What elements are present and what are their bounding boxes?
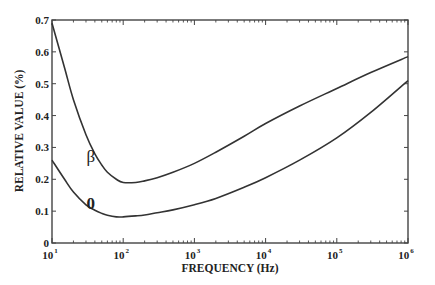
y-tick-label: 0.7	[35, 14, 49, 26]
x-tick-label: 106	[398, 247, 414, 261]
y-tick-label: 0.3	[35, 141, 49, 153]
plot-frame	[52, 20, 408, 243]
x-tick-label: 101	[42, 247, 58, 261]
curve-labels: β0	[86, 147, 95, 213]
relative-value-chart: 00.10.20.30.40.50.60.7 10110210310410510…	[0, 0, 435, 285]
x-tick-label: 102	[113, 247, 129, 261]
y-tick-label: 0.6	[35, 46, 49, 58]
y-tick-label: 0.5	[35, 78, 49, 90]
curve-label-beta: β	[86, 147, 95, 166]
y-tick-label: 0.2	[35, 173, 49, 185]
x-axis: 101102103104105106	[42, 20, 414, 261]
y-axis-title: RELATIVE VALUE (%)	[13, 69, 26, 192]
curves	[52, 23, 408, 217]
y-tick-label: 0.1	[35, 205, 49, 217]
plot-border	[52, 20, 408, 243]
x-tick-label: 105	[327, 247, 343, 261]
y-tick-label: 0.4	[35, 110, 49, 122]
curve-zero	[52, 81, 408, 218]
x-tick-label: 104	[256, 247, 272, 261]
curve-label-zero: 0	[86, 194, 95, 213]
x-tick-label: 103	[185, 247, 201, 261]
y-tick-label: 0	[44, 237, 50, 249]
curve-beta	[52, 23, 408, 183]
y-axis: 00.10.20.30.40.50.60.7	[35, 14, 408, 249]
x-axis-title: FREQUENCY (Hz)	[182, 262, 279, 275]
